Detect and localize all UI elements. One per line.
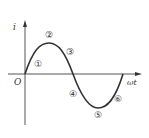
- point-label-3: ③: [66, 47, 74, 57]
- y-axis-label: i: [13, 22, 16, 32]
- x-axis-arrow-icon: [135, 72, 142, 76]
- x-axis-label: ωt: [127, 78, 138, 87]
- origin-label: O: [14, 77, 22, 87]
- sine-diagram: i ωt O ① ② ③ ④ ⑤ ⑥: [0, 0, 149, 138]
- point-label-6: ⑥: [114, 94, 122, 104]
- point-label-2: ②: [45, 30, 53, 40]
- y-axis-arrow-icon: [23, 20, 27, 27]
- point-label-1: ①: [34, 59, 42, 69]
- point-label-5: ⑤: [94, 110, 102, 120]
- point-label-4: ④: [69, 89, 77, 99]
